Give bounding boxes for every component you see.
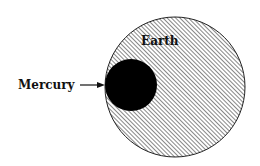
planet-comparison-diagram: Earth Mercury <box>0 0 260 166</box>
diagram-canvas: Earth Mercury <box>0 0 260 166</box>
mercury-label: Mercury <box>18 78 76 92</box>
mercury-circle <box>105 59 157 111</box>
earth-label: Earth <box>141 34 179 48</box>
pointer-arrow-icon <box>80 82 105 88</box>
